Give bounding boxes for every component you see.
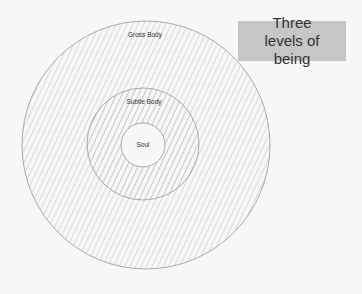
soul-label: Soul [136,141,149,148]
gross-body-label: Gross Body [128,31,162,38]
title-box: Three levels of being [238,21,346,61]
diagram-title: Three levels of being [252,14,332,68]
subtle-body-label: Subtle Body [126,98,161,105]
